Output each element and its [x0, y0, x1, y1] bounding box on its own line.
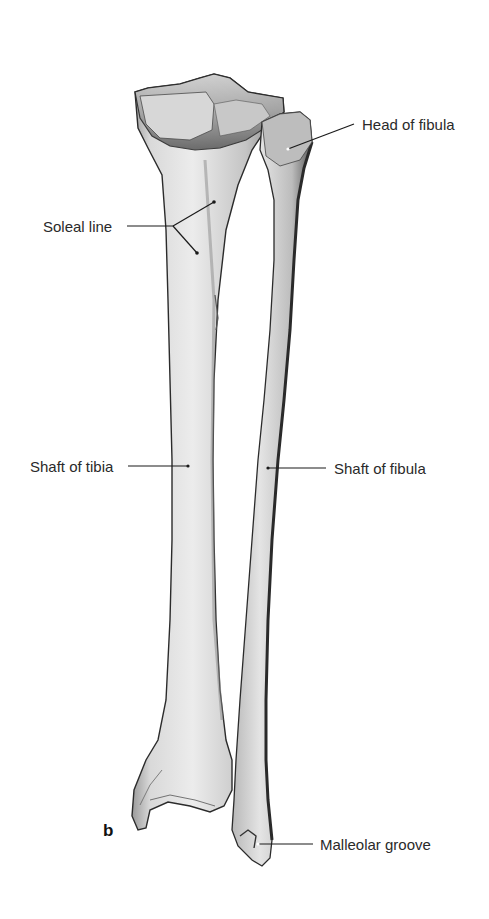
panel-letter: b	[103, 822, 113, 839]
label-shaft-of-fibula: Shaft of fibula	[334, 461, 426, 476]
label-shaft-of-tibia: Shaft of tibia	[30, 459, 113, 474]
anatomy-figure: Head of fibula Soleal line Shaft of tibi…	[0, 0, 489, 919]
label-head-of-fibula: Head of fibula	[362, 117, 455, 132]
label-malleolar-groove: Malleolar groove	[320, 837, 431, 852]
fibula	[232, 112, 312, 866]
label-soleal-line: Soleal line	[43, 219, 112, 234]
